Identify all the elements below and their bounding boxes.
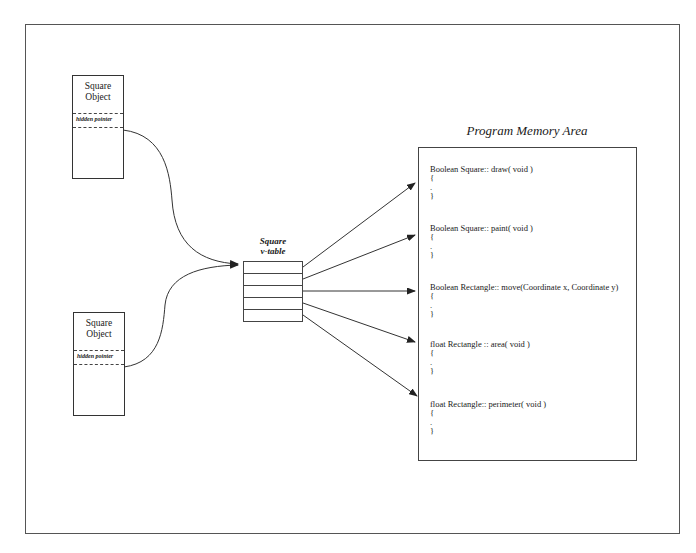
function-body: . <box>430 418 546 427</box>
function-body: . <box>430 358 530 367</box>
function-area: float Rectangle :: area( void ) { . } <box>430 340 530 376</box>
function-perimeter: float Rectangle:: perimeter( void ) { . … <box>430 400 546 436</box>
vtable-row <box>243 310 303 322</box>
divider <box>74 364 124 365</box>
function-signature: Boolean Rectangle:: move(Coordinate x, C… <box>430 283 618 292</box>
vtable-row <box>243 286 303 298</box>
function-draw: Boolean Square:: draw( void ) { . } <box>430 165 533 201</box>
function-open-brace: { <box>430 174 533 183</box>
function-close-brace: } <box>430 427 546 436</box>
function-paint: Boolean Square:: paint( void ) { . } <box>430 224 533 260</box>
function-open-brace: { <box>430 292 618 301</box>
square-object-top: Square Object hidden pointer <box>72 75 124 179</box>
object-title-line2: Object <box>73 92 123 103</box>
function-signature: Boolean Square:: paint( void ) <box>430 224 533 233</box>
vtable-title: Square v-table <box>243 236 303 256</box>
vtable-row <box>243 298 303 310</box>
function-close-brace: } <box>430 251 533 260</box>
function-body: . <box>430 183 533 192</box>
function-close-brace: } <box>430 310 618 319</box>
vtable-title-line2: v-table <box>243 246 303 256</box>
object-title: Square Object <box>73 81 123 103</box>
function-move: Boolean Rectangle:: move(Coordinate x, C… <box>430 283 618 319</box>
square-object-bottom: Square Object hidden pointer <box>73 312 125 416</box>
function-body: . <box>430 242 533 251</box>
function-open-brace: { <box>430 233 533 242</box>
object-title: Square Object <box>74 318 124 340</box>
function-body: . <box>430 301 618 310</box>
function-open-brace: { <box>430 409 546 418</box>
function-open-brace: { <box>430 349 530 358</box>
hidden-pointer-label: hidden pointer <box>77 353 113 359</box>
vtable-title-line1: Square <box>243 236 303 246</box>
function-signature: float Rectangle:: perimeter( void ) <box>430 400 546 409</box>
object-title-line1: Square <box>73 81 123 92</box>
divider <box>73 127 123 128</box>
memory-area-box: Boolean Square:: draw( void ) { . } Bool… <box>418 147 637 461</box>
divider <box>74 350 124 351</box>
function-signature: float Rectangle :: area( void ) <box>430 340 530 349</box>
vtable-row <box>243 261 303 274</box>
function-signature: Boolean Square:: draw( void ) <box>430 165 533 174</box>
object-title-line2: Object <box>74 329 124 340</box>
divider <box>73 113 123 114</box>
memory-area-title: Program Memory Area <box>418 123 636 139</box>
function-close-brace: } <box>430 192 533 201</box>
object-title-line1: Square <box>74 318 124 329</box>
vtable-row <box>243 274 303 286</box>
vtable <box>243 261 303 322</box>
hidden-pointer-label: hidden pointer <box>76 116 112 122</box>
function-close-brace: } <box>430 367 530 376</box>
